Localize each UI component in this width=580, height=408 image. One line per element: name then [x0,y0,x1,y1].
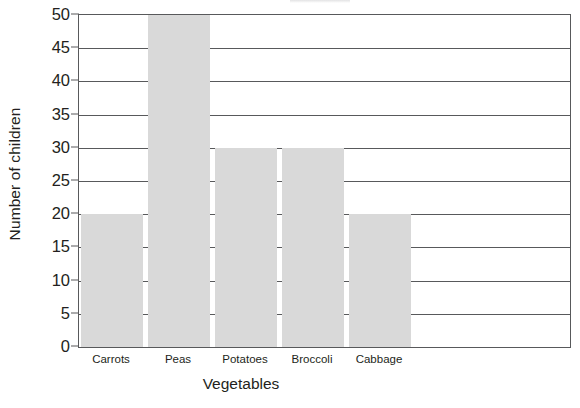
bar-chart: Number of children 05101520253035404550 … [0,0,580,408]
cropped-title-artifact [290,0,350,3]
plot-area [78,14,571,348]
x-tick-label-broccoli: Broccoli [281,350,343,368]
y-tick-label-5: 5 [30,305,70,322]
bars-layer [79,15,570,347]
x-tick-label-carrots: Carrots [80,350,142,368]
y-axis-tick-labels: 05101520253035404550 [30,0,70,348]
bar-cabbage [349,214,411,347]
x-axis-title: Vegetables [78,375,404,393]
y-axis-title-text: Number of children [6,108,24,241]
bar-broccoli [282,148,344,347]
y-tick-label-50: 50 [30,6,70,23]
bar-potatoes [215,148,277,347]
y-tick-label-0: 0 [30,338,70,355]
x-tick-label-peas: Peas [147,350,209,368]
x-tick-label-cabbage: Cabbage [348,350,410,368]
y-tick-label-10: 10 [30,271,70,288]
y-tick-label-35: 35 [30,105,70,122]
y-tick-label-20: 20 [30,205,70,222]
x-tick-label-potatoes: Potatoes [214,350,276,368]
y-axis-title: Number of children [0,0,30,348]
y-tick-label-30: 30 [30,139,70,156]
y-tick-label-15: 15 [30,238,70,255]
y-tick-label-25: 25 [30,172,70,189]
x-axis-tick-labels: CarrotsPeasPotatoesBroccoliCabbage [78,350,571,370]
bar-peas [148,15,210,347]
y-tick-label-40: 40 [30,72,70,89]
bar-carrots [81,214,143,347]
y-tick-label-45: 45 [30,39,70,56]
